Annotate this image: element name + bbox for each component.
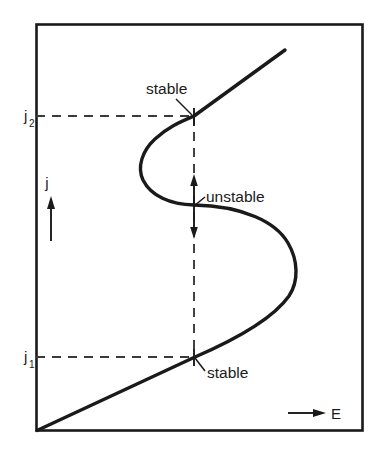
- annotation-unstable: unstable: [206, 188, 265, 205]
- annotation-stable-lower: stable: [207, 364, 248, 381]
- y-tick-j1-subscript: 1: [29, 359, 35, 370]
- stable-lower-leader-line: [195, 358, 205, 371]
- x-axis-indicator: E: [288, 405, 341, 422]
- figure-canvas: j E j 2 j 1 stable unstable stable: [0, 0, 389, 461]
- y-axis-label: j: [44, 174, 48, 191]
- y-tick-label-j1: j 1: [23, 348, 35, 370]
- stable-upper-leader-line: [176, 99, 192, 115]
- y-axis-indicator: j: [44, 174, 55, 241]
- y-tick-j2-base: j: [23, 107, 27, 124]
- s-curve-characteristic: [37, 50, 296, 431]
- x-axis-label: E: [331, 405, 341, 422]
- y-tick-label-j2: j 2: [23, 107, 35, 129]
- down-arrow: [190, 205, 198, 239]
- plot-frame: [37, 25, 363, 431]
- y-tick-j1-base: j: [23, 348, 27, 365]
- bistability-s-curve-figure: j E j 2 j 1 stable unstable stable: [0, 0, 389, 461]
- y-tick-j2-subscript: 2: [29, 118, 35, 129]
- annotation-stable-upper: stable: [146, 80, 187, 97]
- up-arrow: [190, 174, 198, 205]
